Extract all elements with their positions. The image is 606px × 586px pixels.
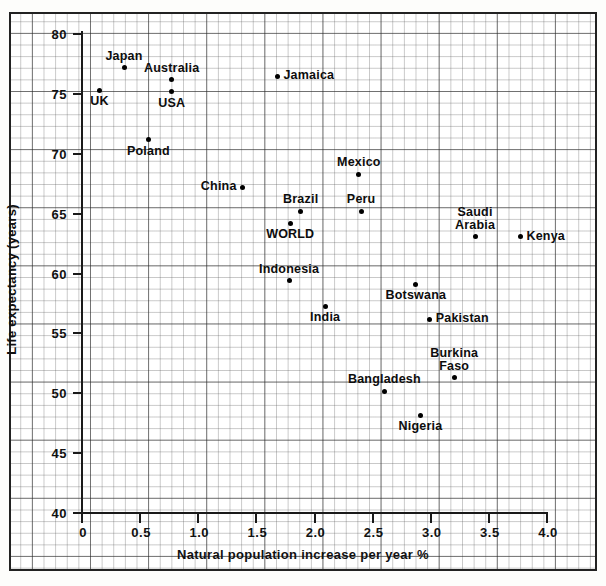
data-point-usa[interactable] [169,89,174,94]
x-tick-label-1.5: 1.5 [248,525,268,540]
data-point-indonesia[interactable] [287,278,292,283]
x-tick-label-0.5: 0.5 [131,525,151,540]
data-label-saudi-arabia: Saudi Arabia [455,205,495,231]
y-tick-label-70: 70 [52,147,67,162]
x-tick-3.0: 3.0 [430,514,432,523]
data-point-jamaica[interactable] [275,74,280,79]
data-label-pakistan: Pakistan [436,313,489,326]
data-label-india: India [310,311,340,324]
data-point-botswana[interactable] [413,282,418,287]
x-tick-1.0: 1.0 [197,514,199,523]
data-label-bangladesh: Bangladesh [348,373,421,386]
x-tick-0: 0 [81,514,83,523]
data-point-burkina-faso[interactable] [452,375,457,380]
data-point-japan[interactable] [122,65,127,70]
data-point-brazil[interactable] [298,209,303,214]
data-label-jamaica: Jamaica [283,70,334,83]
x-axis: 00.51.01.52.02.53.03.54.0 [79,512,548,514]
data-label-japan: Japan [105,50,142,63]
data-label-usa: USA [158,97,185,110]
x-tick-4.0: 4.0 [546,514,548,523]
data-point-peru[interactable] [359,209,364,214]
x-tick-2.5: 2.5 [372,514,374,523]
data-label-nigeria: Nigeria [399,420,443,433]
y-tick-label-80: 80 [52,27,67,42]
data-label-kenya: Kenya [526,230,565,243]
y-tick-label-60: 60 [52,267,67,282]
data-label-poland: Poland [127,145,170,158]
data-label-indonesia: Indonesia [259,263,319,276]
x-tick-label-3.5: 3.5 [480,525,500,540]
y-tick-label-40: 40 [52,506,67,521]
x-tick-label-2.5: 2.5 [364,525,384,540]
data-label-uk: UK [90,95,108,108]
data-label-world: WORLD [266,228,314,241]
data-point-bangladesh[interactable] [382,389,387,394]
x-tick-0.5: 0.5 [139,514,141,523]
chart-page: 404550556065707580 00.51.01.52.02.53.03.… [0,0,606,586]
data-point-india[interactable] [323,304,328,309]
y-tick-label-50: 50 [52,386,67,401]
data-label-botswana: Botswana [385,289,446,302]
x-tick-3.5: 3.5 [488,514,490,523]
data-point-poland[interactable] [146,137,151,142]
data-point-pakistan[interactable] [427,317,432,322]
data-point-world[interactable] [288,221,293,226]
y-tick-label-55: 55 [52,327,67,342]
x-axis-title: Natural population increase per year % [0,547,606,562]
x-tick-1.5: 1.5 [255,514,257,523]
x-tick-label-3.0: 3.0 [422,525,442,540]
data-point-saudi-arabia[interactable] [473,234,478,239]
data-point-nigeria[interactable] [418,413,423,418]
x-tick-label-0: 0 [79,525,87,540]
data-point-mexico[interactable] [356,172,361,177]
data-label-mexico: Mexico [337,156,381,169]
data-label-peru: Peru [347,193,376,206]
data-point-china[interactable] [240,185,245,190]
x-tick-label-2.0: 2.0 [306,525,326,540]
data-label-brazil: Brazil [283,193,318,206]
data-label-australia: Australia [144,62,199,75]
data-point-uk[interactable] [97,88,102,93]
x-tick-2.0: 2.0 [314,514,316,523]
plot-area: JapanUKAustraliaUSAJamaicaPolandMexicoCh… [81,33,546,512]
data-label-china: China [201,181,237,194]
y-tick-label-65: 65 [52,207,67,222]
y-tick-label-45: 45 [52,446,67,461]
y-axis-title: Life expectancy (years) [4,40,19,520]
x-tick-label-4.0: 4.0 [538,525,558,540]
x-tick-label-1.0: 1.0 [189,525,209,540]
data-point-kenya[interactable] [518,234,523,239]
y-tick-label-75: 75 [52,87,67,102]
data-point-australia[interactable] [169,77,174,82]
data-label-burkina-faso: Burkina Faso [430,347,478,373]
